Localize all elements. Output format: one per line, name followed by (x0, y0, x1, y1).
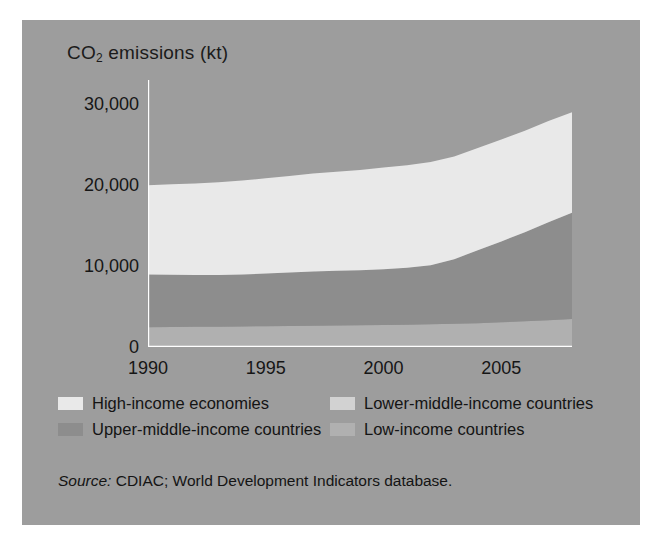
plot-area: 010,00020,00030,000 1990199520002005 (148, 80, 572, 347)
y-axis-tick-label: 0 (129, 337, 139, 358)
legend-item[interactable]: Upper-middle-income countries (58, 420, 330, 439)
source-text: CDIAC; World Development Indicators data… (111, 472, 452, 489)
legend-row: Upper-middle-income countriesLow-income … (58, 416, 618, 442)
legend-label: Low-income countries (364, 420, 525, 439)
chart-title-main: CO (67, 42, 96, 63)
x-axis-tick-label: 1995 (246, 358, 286, 379)
y-axis-tick-label: 10,000 (84, 256, 139, 277)
source-label: Source: (58, 472, 111, 489)
legend-item[interactable]: Lower-middle-income countries (330, 394, 593, 413)
legend-swatch-icon (58, 423, 83, 436)
figure-panel: CO2 emissions (kt) 010,00020,00030,000 1… (22, 20, 640, 525)
x-axis-tick-label: 1990 (128, 358, 168, 379)
legend-label: High-income economies (92, 394, 269, 413)
stacked-area-chart (148, 80, 572, 347)
legend-item[interactable]: Low-income countries (330, 420, 525, 439)
legend-swatch-icon (58, 397, 83, 410)
legend-swatch-icon (330, 423, 355, 436)
x-axis-tick-label: 2005 (481, 358, 521, 379)
y-axis-tick-label: 20,000 (84, 175, 139, 196)
legend-label: Lower-middle-income countries (364, 394, 593, 413)
legend-row: High-income economiesLower-middle-income… (58, 390, 618, 416)
legend-label: Upper-middle-income countries (92, 420, 321, 439)
chart-title: CO2 emissions (kt) (67, 42, 228, 64)
chart-title-rest: emissions (kt) (103, 42, 228, 63)
chart-title-subscript: 2 (96, 51, 103, 65)
legend-swatch-icon (330, 397, 355, 410)
y-axis-tick-label: 30,000 (84, 94, 139, 115)
chart-legend: High-income economiesLower-middle-income… (58, 390, 618, 442)
source-note: Source: CDIAC; World Development Indicat… (58, 472, 452, 490)
x-axis-tick-label: 2000 (364, 358, 404, 379)
legend-item[interactable]: High-income economies (58, 394, 330, 413)
